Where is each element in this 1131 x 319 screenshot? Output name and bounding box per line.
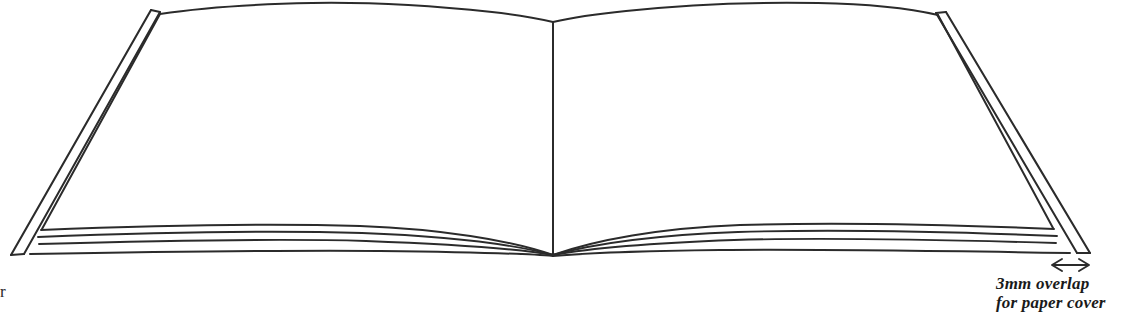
overlap-annotation-line-2: for paper cover [996, 293, 1106, 312]
right-page-stack-lines [553, 224, 1070, 256]
open-book-diagram: 3mm overlap for paper cover r [0, 0, 1131, 319]
right-page-block [553, 3, 1053, 228]
left-page-stack-lines [30, 225, 553, 256]
overlap-dimension-arrow [1052, 259, 1089, 271]
left-cover-board [11, 10, 160, 255]
left-page-block [42, 3, 553, 229]
overlap-annotation: 3mm overlap for paper cover [996, 274, 1106, 312]
left-edge-text-fragment: r [0, 282, 6, 301]
book-line-drawing [0, 0, 1131, 319]
right-cover-board [936, 12, 1090, 253]
overlap-annotation-line-1: 3mm overlap [996, 274, 1106, 293]
